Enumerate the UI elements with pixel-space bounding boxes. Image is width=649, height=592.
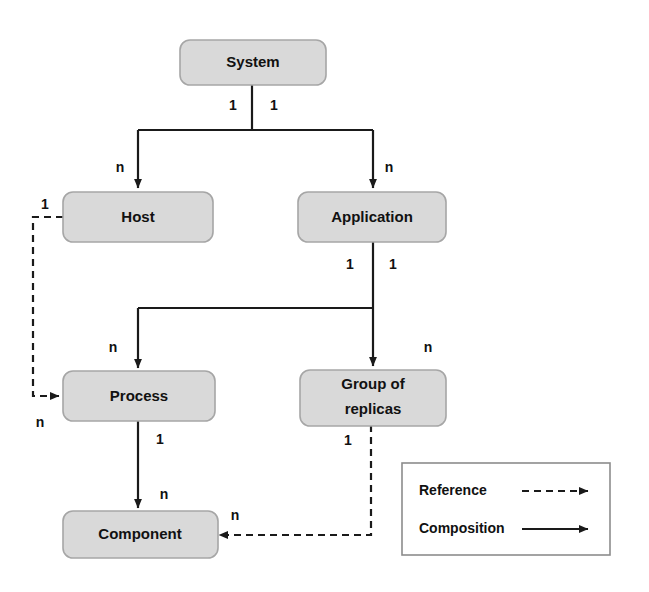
cardinality-host-reference-out: 1: [41, 196, 49, 212]
edge-host-to-process-reference: [33, 217, 63, 396]
node-system[interactable]: System: [180, 40, 326, 85]
uml-composition-reference-diagram: System Host Application Process Group of…: [0, 0, 649, 592]
cardinality-system-right: 1: [270, 97, 278, 113]
cardinality-component-in: n: [160, 486, 169, 502]
edge-application-children: [138, 242, 373, 368]
legend: Reference Composition: [402, 463, 610, 555]
cardinality-group-in: n: [424, 339, 433, 355]
node-component-label: Component: [98, 525, 181, 542]
cardinality-group-reference-out: 1: [344, 432, 352, 448]
node-component[interactable]: Component: [63, 511, 218, 558]
cardinality-application-left: 1: [346, 256, 354, 272]
node-system-label: System: [226, 53, 279, 70]
node-host-label: Host: [121, 208, 154, 225]
cardinality-component-reference-in: n: [231, 507, 240, 523]
node-application-label: Application: [331, 208, 413, 225]
node-process-label: Process: [110, 387, 168, 404]
legend-item-reference-label: Reference: [419, 482, 487, 498]
legend-item-composition-label: Composition: [419, 520, 505, 536]
node-group-of-replicas-label-line1: Group of: [341, 375, 405, 392]
node-application[interactable]: Application: [298, 192, 446, 242]
node-group-of-replicas-label-line2: replicas: [345, 400, 402, 417]
cardinality-application-right: 1: [389, 256, 397, 272]
node-host[interactable]: Host: [63, 192, 213, 242]
cardinality-host-in: n: [116, 159, 125, 175]
node-group-of-replicas[interactable]: Group of replicas: [300, 370, 446, 426]
diagram-canvas: System Host Application Process Group of…: [0, 0, 649, 592]
edge-system-children: [138, 85, 373, 188]
legend-box: [402, 463, 610, 555]
node-process[interactable]: Process: [63, 371, 215, 421]
cardinality-process-out: 1: [156, 431, 164, 447]
cardinality-process-in: n: [109, 339, 118, 355]
cardinality-application-in: n: [385, 159, 394, 175]
cardinality-process-reference-in: n: [36, 414, 45, 430]
cardinality-system-left: 1: [229, 97, 237, 113]
